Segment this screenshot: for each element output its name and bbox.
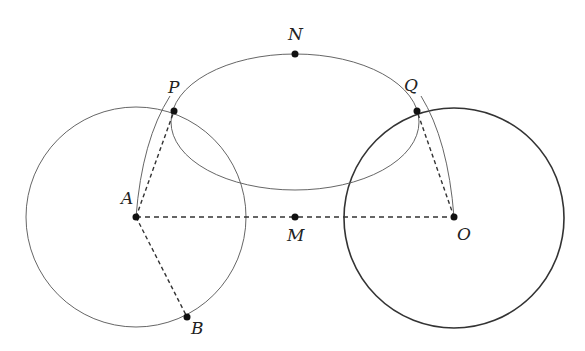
label-O: O: [457, 224, 471, 244]
label-N: N: [287, 24, 304, 44]
label-M: M: [286, 225, 305, 245]
arc-from-O-through-Q: [421, 96, 454, 217]
circle-M: [171, 54, 419, 190]
geometry-diagram: N P Q A M O B: [0, 0, 585, 351]
point-Q: [414, 108, 421, 115]
point-N: [292, 51, 299, 58]
label-A: A: [119, 188, 133, 208]
label-B: B: [190, 318, 204, 338]
point-A: [133, 214, 140, 221]
point-P: [171, 108, 178, 115]
point-M: [292, 214, 299, 221]
point-B: [184, 314, 191, 321]
label-Q: Q: [404, 75, 418, 95]
arc-from-A-through-P: [136, 96, 170, 217]
segment-AB: [136, 217, 187, 317]
point-O: [451, 214, 458, 221]
label-P: P: [167, 77, 180, 97]
